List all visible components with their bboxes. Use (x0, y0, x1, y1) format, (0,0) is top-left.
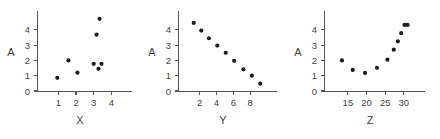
panel-y-y-tick-label: 0 (166, 86, 171, 97)
panel-z-y-tick-label: 4 (312, 24, 317, 35)
panel-y-canvas: 246801234AY (147, 0, 294, 139)
data-point (94, 33, 98, 37)
panel-z-y-tick-label: 2 (312, 55, 317, 66)
panel-x-y-tick-label: 0 (25, 86, 30, 97)
panel-z-y-axis-title: A (294, 46, 302, 58)
data-point (192, 21, 196, 25)
panel-y-y-tick-label: 3 (166, 40, 171, 51)
panel-z-canvas: 1520253001234AZ (293, 0, 440, 139)
data-point (241, 67, 245, 71)
data-point (363, 71, 367, 75)
panel-x-y-tick-label: 2 (25, 55, 30, 66)
data-point (66, 58, 70, 62)
panel-x-x-tick-label: 3 (91, 97, 96, 108)
panel-z-x-axis-title: Z (367, 114, 374, 126)
panel-z-x-tick-label: 30 (399, 97, 410, 108)
panel-y-x-tick-label: 4 (214, 97, 219, 108)
data-point (97, 17, 101, 21)
panel-y-y-axis-title: A (148, 46, 156, 58)
panel-x-canvas: 123401234AX (0, 0, 147, 139)
data-point (340, 58, 344, 62)
data-point (99, 62, 103, 66)
data-point (55, 76, 59, 80)
data-point (207, 36, 211, 40)
panel-y-data-points (192, 21, 263, 86)
panel-y-y-tick-label: 2 (166, 55, 171, 66)
scatter-plot-figure: 123401234AX246801234AY1520253001234AZ (0, 0, 440, 139)
panel-x-data-points (55, 17, 103, 80)
data-point (92, 62, 96, 66)
panel-z-y-tick-label: 1 (312, 70, 317, 81)
panel-y-x-tick-label: 8 (248, 97, 253, 108)
data-point (399, 31, 403, 35)
panel-y-x-tick-label: 6 (231, 97, 236, 108)
panel-x: 123401234AX (0, 0, 147, 139)
data-point (405, 23, 409, 27)
panel-x-y-axis-title: A (7, 46, 15, 58)
data-point (232, 59, 236, 63)
data-point (392, 48, 396, 52)
panel-z-x-tick-label: 20 (361, 97, 372, 108)
panel-x-x-axis-title: X (76, 114, 84, 126)
panel-x-x-tick-label: 2 (73, 97, 78, 108)
panel-z-data-points (340, 23, 410, 75)
data-point (215, 43, 219, 47)
data-point (396, 39, 400, 43)
panel-y-x-axis-title: Y (219, 114, 227, 126)
panel-z: 1520253001234AZ (293, 0, 440, 139)
data-point (224, 51, 228, 55)
panel-y-y-tick-label: 1 (166, 70, 171, 81)
data-point (385, 58, 389, 62)
panel-y-x-tick-label: 2 (197, 97, 202, 108)
panel-x-y-tick-label: 1 (25, 70, 30, 81)
panel-y-y-tick-label: 4 (166, 24, 171, 35)
panel-z-x-tick-label: 15 (343, 97, 354, 108)
data-point (199, 28, 203, 32)
data-point (351, 68, 355, 72)
panel-z-y-tick-label: 0 (312, 86, 317, 97)
panel-y: 246801234AY (147, 0, 294, 139)
panel-z-y-tick-label: 3 (312, 40, 317, 51)
panel-x-y-tick-label: 3 (25, 40, 30, 51)
data-point (75, 71, 79, 75)
data-point (250, 74, 254, 78)
panel-x-x-tick-label: 1 (56, 97, 61, 108)
panel-x-x-tick-label: 4 (109, 97, 114, 108)
data-point (96, 67, 100, 71)
data-point (258, 82, 262, 86)
panel-z-x-tick-label: 25 (380, 97, 391, 108)
data-point (375, 66, 379, 70)
panel-x-y-tick-label: 4 (25, 24, 30, 35)
